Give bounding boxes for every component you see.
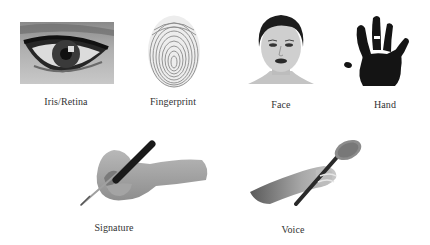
face-icon [248, 13, 314, 85]
face-label: Face [271, 99, 290, 110]
handprint-icon [343, 12, 415, 86]
fingerprint-icon [147, 15, 201, 88]
fingerprint-label: Fingerprint [150, 96, 196, 107]
eye-icon [20, 22, 114, 84]
iris-label: Iris/Retina [44, 96, 87, 107]
voice-label: Voice [281, 224, 304, 235]
hand-writing-pen-icon [80, 138, 210, 208]
hand-label: Hand [374, 99, 396, 110]
hand-holding-microphone-icon [250, 138, 370, 206]
signature-label: Signature [94, 222, 133, 233]
